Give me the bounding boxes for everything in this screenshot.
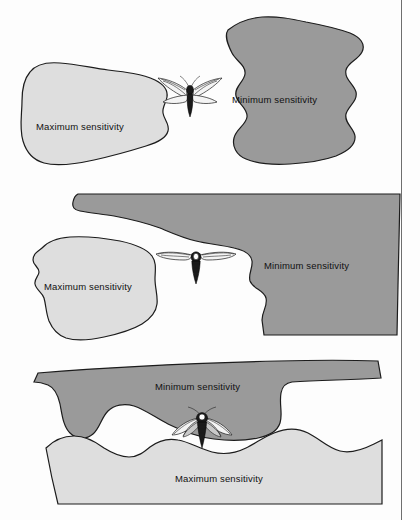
panel-3-minimum-sensitivity-label: Minimum sensitivity xyxy=(155,381,240,392)
panel-2-maximum-sensitivity-label: Maximum sensitivity xyxy=(44,281,132,292)
panel-1-top-view: Maximum sensitivity Minimum sensitivity xyxy=(0,0,420,180)
panel-3-maximum-sensitivity-zone xyxy=(46,429,382,504)
panel-1-maximum-sensitivity-label: Maximum sensitivity xyxy=(36,121,124,132)
figure-page: Maximum sensitivity Minimum sensitivity xyxy=(0,0,420,520)
panel-1-maximum-sensitivity-zone xyxy=(21,63,168,165)
moth-icon xyxy=(156,252,236,284)
panel-1-minimum-sensitivity-zone xyxy=(226,17,363,165)
panel-2-front-view: Maximum sensitivity Minimum sensitivity xyxy=(0,180,420,352)
panel-1-minimum-sensitivity-label: Minimum sensitivity xyxy=(232,94,317,105)
panel-2-minimum-sensitivity-label: Minimum sensitivity xyxy=(264,260,349,271)
panel-3-maximum-sensitivity-label: Maximum sensitivity xyxy=(175,473,263,484)
panel-3-side-view: Minimum sensitivity Maximum sensitivity xyxy=(0,352,420,520)
